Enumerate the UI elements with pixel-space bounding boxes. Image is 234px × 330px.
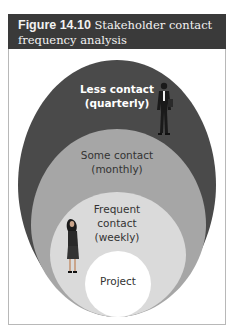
label-frequent-contact-line2: contact [97,217,136,229]
label-project: Project [78,274,158,288]
label-less-contact: Less contact (quarterly) [67,82,167,110]
label-some-contact: Some contact (monthly) [67,148,167,176]
label-some-contact-line2: (monthly) [91,163,142,175]
label-frequent-contact-line1: Frequent [94,203,140,215]
label-project-text: Project [100,275,136,287]
label-less-contact-line1: Less contact [80,83,154,95]
label-some-contact-line1: Some contact [81,149,153,161]
label-less-contact-line2: (quarterly) [85,97,150,109]
label-frequent-contact: Frequent contact (weekly) [67,202,167,244]
label-frequent-contact-line3: (weekly) [95,231,140,243]
